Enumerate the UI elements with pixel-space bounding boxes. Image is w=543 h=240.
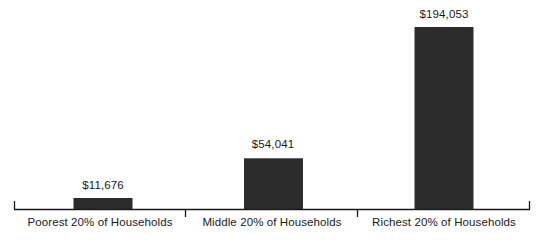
bar-value-label: $194,053 bbox=[396, 8, 492, 21]
chart-plot-area bbox=[0, 0, 543, 240]
bar bbox=[415, 27, 474, 209]
bar-value-label: $11,676 bbox=[58, 179, 148, 192]
bar-value-label: $54,041 bbox=[228, 138, 318, 151]
bar-chart: $11,676 $54,041 $194,053 Poorest 20% of … bbox=[0, 0, 543, 240]
x-axis-category-label: Richest 20% of Households bbox=[358, 215, 530, 229]
x-axis-category-label: Poorest 20% of Households bbox=[14, 215, 186, 229]
x-axis-category-label: Middle 20% of Households bbox=[186, 215, 358, 229]
bar bbox=[244, 158, 303, 209]
bar bbox=[74, 198, 133, 209]
